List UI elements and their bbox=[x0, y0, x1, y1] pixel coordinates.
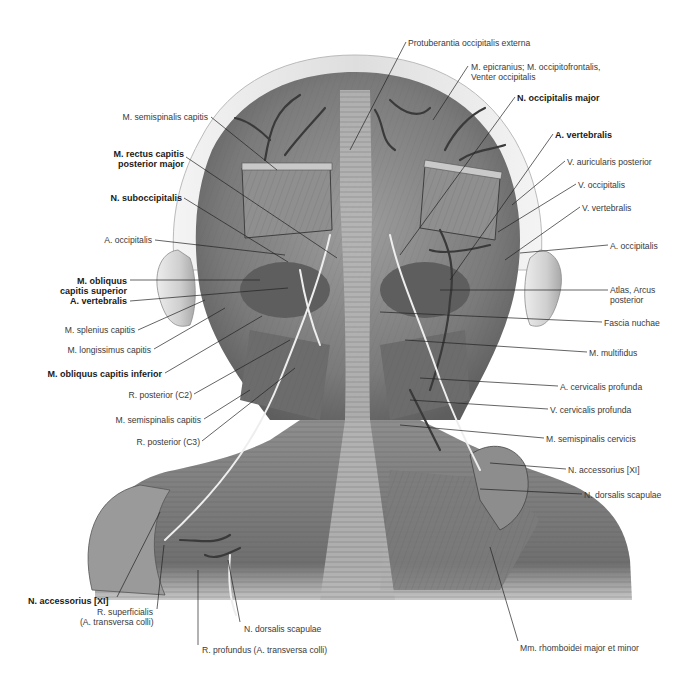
label-v-occipitalis: V. occipitalis bbox=[578, 180, 625, 190]
label-semispinalis-cervicis: M. semispinalis cervicis bbox=[546, 434, 636, 444]
label-text: M. obliquus capitis inferior bbox=[42, 369, 162, 379]
label-epicranius: M. epicranius; M. occipitofrontalis,Vent… bbox=[471, 62, 600, 83]
label-text: N. suboccipitalis bbox=[98, 193, 182, 203]
label-dorsalis-scapulae-right: N. dorsalis scapulae bbox=[584, 490, 661, 500]
label-r-posterior-c2: R. posterior (C2) bbox=[128, 390, 192, 400]
label-v-vertebralis: V. vertebralis bbox=[582, 203, 631, 213]
label-text: V. vertebralis bbox=[582, 203, 631, 213]
label-text: N. occipitalis major bbox=[517, 93, 600, 103]
label-r-profundus: R. profundus (A. transversa colli) bbox=[202, 645, 327, 655]
label-text: N. dorsalis scapulae bbox=[584, 490, 661, 500]
label-text: V. cervicalis profunda bbox=[550, 405, 631, 415]
label-protuberantia: Protuberantia occipitalis externa bbox=[408, 38, 530, 48]
label-splenius: M. splenius capitis bbox=[62, 325, 135, 335]
label-text: Protuberantia occipitalis externa bbox=[408, 38, 530, 48]
label-text: Mm. rhomboidei major et minor bbox=[520, 643, 639, 653]
label-rectus-capitis: M. rectus capitisposterior major bbox=[108, 149, 184, 170]
label-obliquus-inferior: M. obliquus capitis inferior bbox=[42, 369, 162, 379]
label-text: M. longissimus capitis bbox=[64, 345, 151, 355]
label-dorsalis-scapulae-left: N. dorsalis scapulae bbox=[244, 624, 321, 634]
label-text: M. semispinalis capitis bbox=[120, 112, 208, 122]
label-text: M. rectus capitis bbox=[108, 149, 184, 159]
label-occipitalis-major: N. occipitalis major bbox=[517, 93, 600, 103]
label-text: M. multifidus bbox=[589, 348, 637, 358]
label-a-occipitalis-left: A. occipitalis bbox=[100, 235, 152, 245]
label-text: R. posterior (C3) bbox=[136, 437, 200, 447]
label-text: R. superficialis bbox=[80, 607, 153, 617]
label-vertebralis-a-left: A. vertebralis bbox=[64, 296, 127, 306]
label-text: A. vertebralis bbox=[64, 296, 127, 306]
label-text-line2: posterior major bbox=[108, 159, 184, 169]
label-text: R. profundus (A. transversa colli) bbox=[202, 645, 327, 655]
label-text: V. auricularis posterior bbox=[567, 157, 652, 167]
label-accessorius-right: N. accessorius [XI] bbox=[568, 465, 640, 475]
label-text: M. epicranius; M. occipitofrontalis, bbox=[471, 62, 600, 72]
label-text: N. accessorius [XI] bbox=[28, 596, 109, 606]
label-accessorius-left: N. accessorius [XI] bbox=[28, 596, 109, 606]
label-rhomboidei: Mm. rhomboidei major et minor bbox=[520, 643, 639, 653]
label-a-occipitalis-right: A. occipitalis bbox=[610, 241, 658, 251]
label-obliquus-superior: M. obliquuscapitis superior bbox=[52, 276, 127, 297]
label-multifidus: M. multifidus bbox=[589, 348, 637, 358]
label-text: A. occipitalis bbox=[100, 235, 152, 245]
label-text: Atlas, Arcus bbox=[610, 285, 655, 295]
label-text: M. obliquus bbox=[52, 276, 127, 286]
label-r-superficialis: R. superficialis(A. transversa colli) bbox=[80, 607, 153, 628]
label-text: M. semispinalis capitis bbox=[112, 415, 201, 425]
label-text-line2: (A. transversa colli) bbox=[80, 617, 153, 627]
label-text: N. accessorius [XI] bbox=[568, 465, 640, 475]
label-text: V. occipitalis bbox=[578, 180, 625, 190]
label-text: N. dorsalis scapulae bbox=[244, 624, 321, 634]
label-text: M. splenius capitis bbox=[62, 325, 135, 335]
label-longissimus: M. longissimus capitis bbox=[64, 345, 151, 355]
label-cervicalis-v: V. cervicalis profunda bbox=[550, 405, 631, 415]
label-text: A. occipitalis bbox=[610, 241, 658, 251]
label-text: Fascia nuchae bbox=[604, 318, 660, 328]
label-text: A. vertebralis bbox=[555, 130, 612, 140]
label-cervicalis-a: A. cervicalis profunda bbox=[560, 382, 642, 392]
label-semispinalis-capitis-low: M. semispinalis capitis bbox=[112, 415, 201, 425]
label-atlas: Atlas, Arcusposterior bbox=[610, 285, 655, 306]
label-text: M. semispinalis cervicis bbox=[546, 434, 636, 444]
label-text-line2: posterior bbox=[610, 295, 655, 305]
label-r-posterior-c3: R. posterior (C3) bbox=[136, 437, 200, 447]
label-text-line2: Venter occipitalis bbox=[471, 72, 600, 82]
leader-semispinalis-capitis-low bbox=[204, 390, 250, 419]
label-fascia-nuchae: Fascia nuchae bbox=[604, 318, 660, 328]
label-suboccipitalis: N. suboccipitalis bbox=[98, 193, 182, 203]
label-vertebralis-a-right: A. vertebralis bbox=[555, 130, 612, 140]
label-text: R. posterior (C2) bbox=[128, 390, 192, 400]
label-text: A. cervicalis profunda bbox=[560, 382, 642, 392]
label-semispinalis-capitis-top: M. semispinalis capitis bbox=[120, 112, 208, 122]
label-auricularis-posterior: V. auricularis posterior bbox=[567, 157, 652, 167]
